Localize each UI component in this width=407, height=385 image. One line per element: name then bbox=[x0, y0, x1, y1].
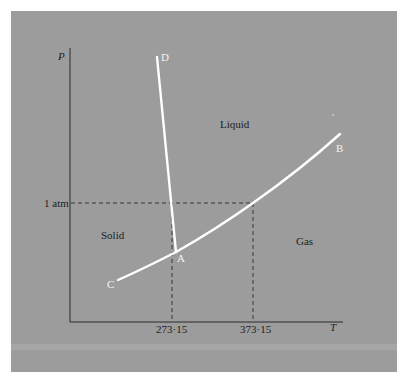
speck bbox=[332, 114, 334, 116]
region-liquid: Liquid bbox=[220, 118, 250, 130]
phase-diagram: P T 1 atm 273·15 373·15 Liquid Solid Gas… bbox=[0, 0, 407, 385]
fusion-curve-AD bbox=[157, 57, 176, 252]
x-tick-373: 373·15 bbox=[240, 323, 272, 335]
point-a: A bbox=[177, 252, 185, 264]
y-tick-1atm: 1 atm bbox=[44, 197, 69, 209]
x-tick-273: 273·15 bbox=[156, 323, 188, 335]
y-axis-label: P bbox=[57, 50, 65, 62]
point-d: D bbox=[161, 51, 169, 63]
sublimation-vaporization-curve-CAB bbox=[118, 134, 340, 280]
point-c: C bbox=[107, 278, 114, 290]
x-axis-label: T bbox=[330, 321, 337, 333]
region-gas: Gas bbox=[296, 235, 313, 247]
point-b: B bbox=[336, 142, 343, 154]
region-solid: Solid bbox=[101, 229, 125, 241]
